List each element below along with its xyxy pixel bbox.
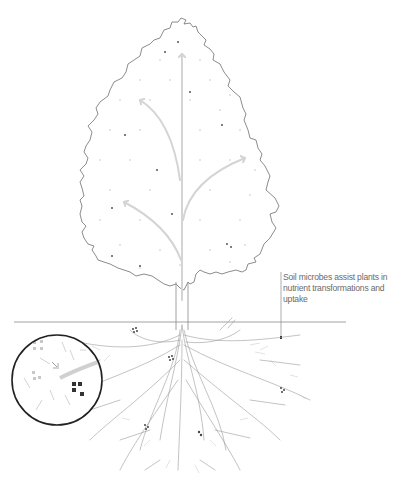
- microbe-magnified-circle: [12, 335, 110, 425]
- root-hairs: [64, 343, 306, 473]
- diagram-canvas: [0, 0, 402, 483]
- tree-diagram: Soil microbes assist plants in nutrient …: [0, 0, 402, 483]
- soil-microbes: [132, 327, 285, 436]
- tree-canopy: [80, 18, 279, 290]
- annotation-leader: [280, 272, 282, 339]
- annotation-caption: Soil microbes assist plants in nutrient …: [283, 272, 401, 305]
